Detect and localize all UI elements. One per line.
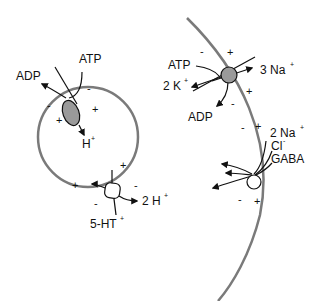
nak-atp-label: ATP	[168, 58, 190, 72]
membrane-sign: +	[254, 195, 260, 207]
nak-2k-charge: +	[184, 77, 188, 84]
vesicle-sign: -	[47, 99, 51, 111]
vatpase-h-charge: +	[91, 135, 95, 142]
membrane-sign: -	[231, 97, 235, 109]
vmat-2h-charge: +	[164, 192, 168, 199]
diagram-canvas: ATP ADP H + - - + + 2 H + 5-HT + + + - -…	[0, 0, 325, 301]
vmat-transporter-icon	[104, 182, 121, 199]
vmat-5ht-label: 5-HT	[90, 217, 117, 231]
membrane-sign: +	[255, 120, 261, 132]
vmat-transporter	[92, 170, 137, 215]
membrane-sign: -	[200, 45, 204, 57]
v-atpase-pump-icon	[59, 98, 83, 128]
vmat-2h-label: 2 H	[142, 194, 161, 208]
vesicle-sign: +	[72, 179, 78, 191]
gat-2na-charge: +	[300, 124, 304, 131]
nak-adp-label: ADP	[188, 110, 213, 124]
membrane-sign: +	[246, 85, 252, 97]
gat-cl-label: Cl	[271, 139, 282, 153]
nak-3na-charge: +	[290, 61, 294, 68]
membrane-sign: -	[241, 121, 245, 133]
vatpase-atp-label: ATP	[79, 52, 101, 66]
membrane-sign: -	[238, 193, 242, 205]
gat-gaba-label: GABA	[271, 152, 304, 166]
vesicle-sign: +	[92, 103, 98, 115]
membrane-sign: +	[227, 46, 233, 58]
vatpase-h-label: H	[82, 137, 91, 151]
plasma-membrane	[187, 18, 263, 301]
vmat-5ht-charge: +	[120, 215, 124, 222]
vesicle-sign: +	[120, 159, 126, 171]
gaba-transporter-icon	[247, 175, 261, 189]
vatpase-adp-label: ADP	[16, 69, 41, 83]
nak-3na-label: 3 Na	[260, 63, 286, 77]
vesicle-sign: -	[94, 197, 98, 209]
nak-2k-label: 2 K	[163, 79, 181, 93]
na-k-pump-icon	[221, 67, 237, 83]
vesicle-sign: +	[56, 114, 62, 126]
vesicle-sign: -	[134, 179, 138, 191]
vesicle-sign: -	[87, 82, 91, 94]
